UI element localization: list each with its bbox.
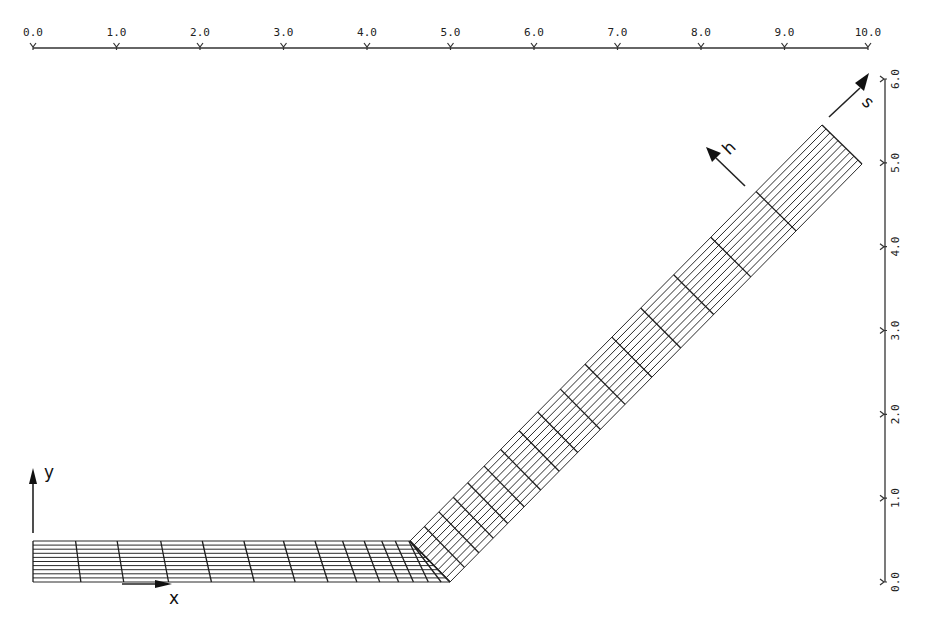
right-axis-tick-label: 1.0 [889, 488, 902, 508]
top-axis-tick-label: 10.0 [855, 26, 882, 39]
x-axis-arrow: x [122, 580, 179, 608]
top-axis-tick-label: 2.0 [190, 26, 210, 39]
top-axis-tick-label: 9.0 [775, 26, 795, 39]
s-direction-arrow: s [829, 73, 879, 117]
right-axis-tick-label: 6.0 [889, 69, 902, 89]
top-axis-tick-label: 1.0 [107, 26, 127, 39]
s-direction-label: s [858, 92, 879, 113]
h-direction-arrow: h [706, 137, 745, 186]
right-axis-tick-label: 3.0 [889, 321, 902, 341]
y-axis-arrow: y [29, 462, 54, 533]
right-axis: 0.01.02.03.04.05.06.0 [880, 69, 902, 592]
arrow-right-icon [155, 580, 172, 588]
y-axis-label: y [44, 462, 54, 482]
top-axis-tick-label: 0.0 [23, 26, 43, 39]
right-axis-tick-label: 0.0 [889, 572, 902, 592]
arrow-diagonal-icon [855, 73, 869, 91]
arrow-up-icon [29, 468, 37, 484]
mesh-grid [33, 125, 862, 582]
top-axis-tick-label: 4.0 [357, 26, 377, 39]
mesh-figure: 0.01.02.03.04.05.06.07.08.09.010.0 0.01.… [0, 0, 926, 625]
top-axis-tick-label: 6.0 [524, 26, 544, 39]
right-axis-tick-label: 2.0 [889, 404, 902, 424]
top-axis-tick-label: 5.0 [441, 26, 461, 39]
x-axis-label: x [169, 588, 179, 608]
top-axis-tick-label: 3.0 [274, 26, 294, 39]
right-axis-tick-label: 5.0 [889, 153, 902, 173]
top-axis-tick-label: 7.0 [608, 26, 628, 39]
h-direction-label: h [718, 137, 740, 159]
right-axis-tick-label: 4.0 [889, 237, 902, 257]
top-axis: 0.01.02.03.04.05.06.07.08.09.010.0 [23, 26, 881, 50]
top-axis-tick-label: 8.0 [691, 26, 711, 39]
